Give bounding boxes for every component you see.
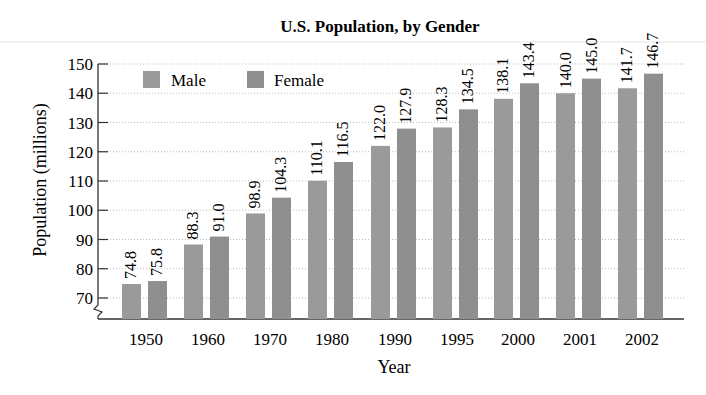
y-tick-label: 130 bbox=[68, 114, 94, 133]
bar-female bbox=[334, 162, 353, 319]
bar-female bbox=[459, 109, 478, 319]
data-label: 88.3 bbox=[185, 211, 202, 239]
data-label: 75.8 bbox=[149, 248, 166, 276]
bar-female bbox=[397, 129, 416, 319]
bar-male bbox=[433, 127, 452, 319]
data-label: 138.1 bbox=[495, 58, 512, 94]
legend-swatch-male bbox=[143, 71, 160, 88]
y-tick-label: 100 bbox=[68, 201, 94, 220]
y-tick-label: 70 bbox=[76, 289, 93, 308]
data-label: 122.0 bbox=[372, 105, 389, 141]
chart-title: U.S. Population, by Gender bbox=[280, 17, 480, 36]
x-tick-label: 1995 bbox=[440, 330, 474, 349]
x-tick-label: 1980 bbox=[315, 330, 349, 349]
y-tick-label: 120 bbox=[68, 143, 94, 162]
data-label: 110.1 bbox=[309, 140, 326, 175]
legend-label-female: Female bbox=[274, 71, 324, 90]
y-axis-label: Population (millions) bbox=[30, 103, 51, 257]
data-label: 128.3 bbox=[434, 86, 451, 122]
x-tick-label: 1970 bbox=[253, 330, 287, 349]
data-label: 127.9 bbox=[398, 88, 415, 124]
bar-female bbox=[520, 83, 539, 319]
data-label: 116.5 bbox=[335, 122, 352, 157]
x-tick-label: 2001 bbox=[563, 330, 597, 349]
bar-male bbox=[371, 146, 390, 319]
bar-female bbox=[582, 79, 601, 319]
x-tick-label: 1960 bbox=[191, 330, 225, 349]
x-tick-label: 1990 bbox=[378, 330, 412, 349]
bar-male bbox=[246, 213, 265, 319]
data-label: 143.4 bbox=[521, 42, 538, 78]
data-label: 104.3 bbox=[273, 157, 290, 193]
bar-male bbox=[308, 181, 327, 319]
bar-female bbox=[148, 281, 167, 319]
bar-male bbox=[184, 244, 203, 319]
x-tick-label: 1950 bbox=[129, 330, 163, 349]
bar-male bbox=[122, 284, 141, 319]
y-tick-label: 110 bbox=[68, 172, 93, 191]
bar-female bbox=[210, 237, 229, 319]
bar-male bbox=[556, 93, 575, 319]
bar-male bbox=[618, 88, 637, 319]
data-label: 91.0 bbox=[211, 204, 228, 232]
x-axis-label: Year bbox=[377, 357, 410, 377]
data-label: 145.0 bbox=[583, 38, 600, 74]
population-chart: U.S. Population, by Gender70809010011012… bbox=[0, 0, 706, 395]
y-tick-label: 90 bbox=[76, 231, 93, 250]
data-label: 140.0 bbox=[557, 52, 574, 88]
data-label: 141.7 bbox=[619, 47, 636, 83]
axis-break-icon bbox=[94, 305, 102, 319]
x-tick-label: 2002 bbox=[625, 330, 659, 349]
legend-label-male: Male bbox=[171, 71, 206, 90]
bar-male bbox=[494, 99, 513, 319]
y-tick-label: 140 bbox=[68, 84, 94, 103]
data-label: 134.5 bbox=[460, 68, 477, 104]
data-label: 98.9 bbox=[247, 180, 264, 208]
y-tick-label: 150 bbox=[68, 55, 94, 74]
x-tick-label: 2000 bbox=[501, 330, 535, 349]
data-label: 74.8 bbox=[123, 251, 140, 279]
y-tick-label: 80 bbox=[76, 260, 93, 279]
legend-swatch-female bbox=[247, 71, 264, 88]
data-label: 146.7 bbox=[645, 33, 662, 69]
bar-female bbox=[644, 74, 663, 319]
bar-female bbox=[272, 198, 291, 319]
